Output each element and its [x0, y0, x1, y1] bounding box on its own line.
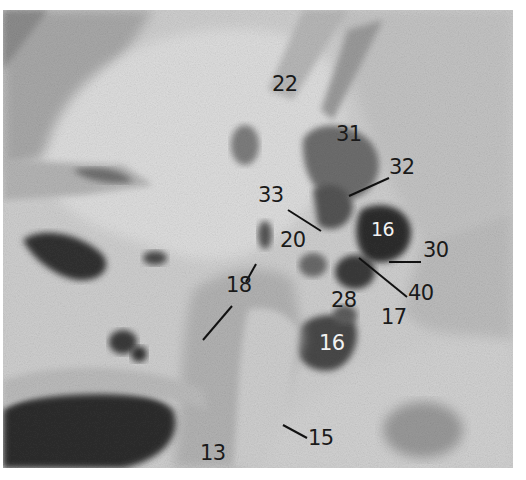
label-30: 30	[423, 240, 449, 261]
label-17: 17	[381, 307, 407, 328]
label-28: 28	[331, 290, 357, 311]
anatomical-photo: 22 31 32 33 16 20 30 18 40 28 17 16 15 1…	[3, 10, 513, 468]
label-32: 32	[389, 157, 415, 178]
label-31: 31	[336, 124, 362, 145]
label-16-upper: 16	[371, 220, 394, 239]
label-16-lower: 16	[319, 333, 345, 354]
label-13: 13	[200, 443, 226, 464]
label-18: 18	[226, 275, 252, 296]
label-22: 22	[272, 74, 298, 95]
label-15: 15	[308, 428, 334, 449]
label-33: 33	[258, 185, 284, 206]
label-40: 40	[408, 283, 434, 304]
label-20: 20	[280, 230, 306, 251]
